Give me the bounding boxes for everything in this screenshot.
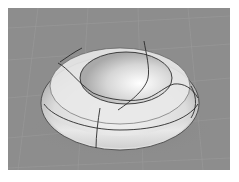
torus-surface xyxy=(41,48,199,150)
viewport-canvas xyxy=(8,8,230,170)
3d-viewport[interactable] xyxy=(8,8,230,170)
